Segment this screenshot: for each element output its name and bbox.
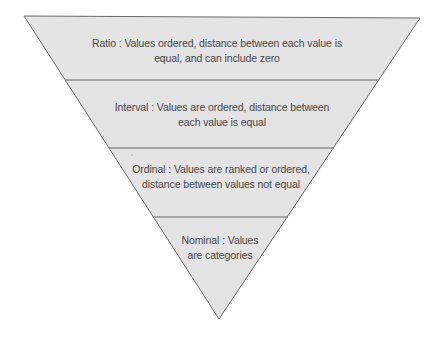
label-ordinal-line2: distance between values not equal: [121, 177, 321, 192]
label-nominal-line2: are categories: [170, 248, 270, 263]
label-ordinal-line1: Ordinal : Values are ranked or ordered,: [121, 162, 321, 177]
label-ratio: Ratio : Values ordered, distance between…: [72, 36, 362, 65]
label-ratio-line2: equal, and can include zero: [72, 51, 362, 66]
label-nominal-line1: Nominal : Values: [170, 233, 270, 248]
speck-mark: [131, 154, 132, 155]
label-nominal: Nominal : Values are categories: [170, 233, 270, 262]
label-ratio-line1: Ratio : Values ordered, distance between…: [72, 36, 362, 51]
label-interval-line2: each value is equal: [92, 115, 352, 130]
label-interval-line1: Interval : Values are ordered, distance …: [92, 100, 352, 115]
label-interval: Interval : Values are ordered, distance …: [92, 100, 352, 129]
label-ordinal: Ordinal : Values are ranked or ordered, …: [121, 162, 321, 191]
